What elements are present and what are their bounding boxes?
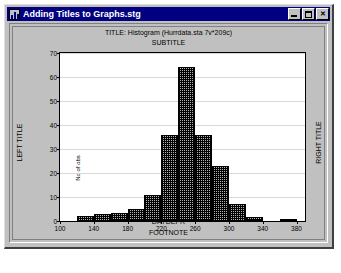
graph-title: TITLE: Histogram (Hurrdata.sta 7v*209c) [13,29,324,36]
y-tick-label: 70 [50,50,57,57]
x-axis-label: DAYDEPR [13,218,324,225]
histogram-bar [161,135,178,221]
y-tick-mark [57,149,60,150]
plot-area[interactable]: No of obs 010203040506070 10014018022026… [59,52,306,222]
y-tick-label: 50 [50,98,57,105]
title-bar[interactable]: Adding Titles to Graphs.stg ✕ [7,7,330,21]
histogram-bar [195,135,212,221]
y-tick-label: 40 [50,122,57,129]
maximize-button[interactable] [302,8,315,20]
y-tick-label: 10 [50,194,57,201]
y-tick-mark [57,173,60,174]
application-window: Adding Titles to Graphs.stg ✕ TITLE: His… [4,4,334,249]
y-tick-label: 20 [50,170,57,177]
graph-footnote: FOOTNOTE [13,229,324,236]
y-tick-mark [57,53,60,54]
graph-right-title: RIGHT TITLE [315,113,322,173]
y-tick-mark [57,197,60,198]
y-tick-mark [57,101,60,102]
y-tick-mark [57,77,60,78]
graph-document-icon [9,9,20,20]
graph-subtitle: SUBTITLE [13,39,324,46]
graph-canvas[interactable]: TITLE: Histogram (Hurrdata.sta 7v*209c) … [12,26,325,240]
minimize-button[interactable] [288,8,301,20]
gridline [60,53,305,54]
histogram-bar [212,166,229,221]
graph-client-area: TITLE: Histogram (Hurrdata.sta 7v*209c) … [9,23,328,243]
y-tick-mark [57,125,60,126]
y-axis-label: No of obs [75,138,81,198]
close-button[interactable]: ✕ [316,8,329,20]
window-title: Adding Titles to Graphs.stg [23,9,287,20]
y-tick-label: 30 [50,146,57,153]
histogram-bar [178,67,195,221]
graph-left-title: LEFT TITLE [16,113,23,173]
y-tick-label: 60 [50,74,57,81]
